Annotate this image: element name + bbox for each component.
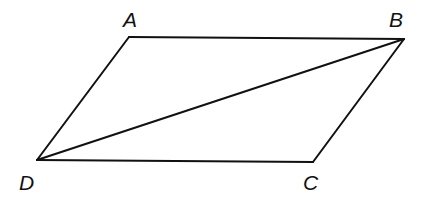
vertex-label-c: C bbox=[303, 171, 319, 194]
segment-da bbox=[37, 37, 129, 160]
parallelogram-diagram: A B C D bbox=[0, 0, 424, 199]
diagonal-db bbox=[37, 39, 404, 160]
segment-bc bbox=[313, 39, 404, 162]
segment-ab bbox=[129, 37, 404, 39]
vertex-label-b: B bbox=[389, 8, 403, 31]
vertex-label-d: D bbox=[19, 171, 34, 194]
segment-cd bbox=[37, 160, 313, 162]
vertex-label-a: A bbox=[121, 8, 137, 31]
